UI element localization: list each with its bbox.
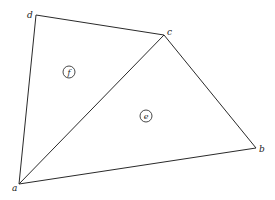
face-marker-f: f <box>63 66 75 78</box>
vertex-label-b: b <box>259 144 265 154</box>
edge-d-c <box>36 15 164 35</box>
edge-d-a <box>19 15 36 184</box>
edges-group <box>19 15 256 184</box>
edge-a-b <box>19 148 256 184</box>
face-labels-group: fe <box>63 66 152 122</box>
vertex-label-a: a <box>12 183 17 193</box>
face-label-e: e <box>144 112 149 121</box>
face-marker-e: e <box>140 110 152 122</box>
edge-a-c <box>19 35 164 184</box>
vertex-label-d: d <box>27 10 33 20</box>
edge-c-b <box>164 35 256 148</box>
vertex-label-c: c <box>167 27 172 37</box>
graph-diagram: abcd fe <box>0 0 275 200</box>
